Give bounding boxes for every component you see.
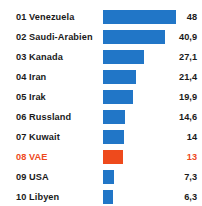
bar (103, 110, 125, 124)
row-country-name: VAE (29, 152, 48, 162)
row-label: 01 Venezuela (16, 7, 74, 27)
bar-track (103, 130, 178, 144)
row-label: 06 Russland (16, 107, 71, 127)
row-label: 04 Iran (16, 67, 46, 87)
bar (103, 10, 176, 24)
row-rank: 09 (16, 172, 26, 182)
bar-track (103, 10, 178, 24)
bar-track (103, 110, 178, 124)
chart-row: 03 Kanada27,1 (0, 47, 202, 67)
row-country-name: Kanada (29, 52, 63, 62)
bar-track (103, 150, 178, 164)
row-rank: 01 (16, 12, 26, 22)
row-value-label: 14 (187, 127, 197, 147)
row-value-label: 14,6 (179, 107, 197, 127)
bar-highlighted (103, 150, 123, 164)
row-country-name: Iran (29, 72, 46, 82)
row-country-name: Venezuela (29, 12, 74, 22)
row-value-label: 40,9 (179, 27, 197, 47)
row-value-label: 13 (187, 147, 197, 167)
bar (103, 190, 113, 204)
row-label: 07 Kuwait (16, 127, 60, 147)
row-rank: 03 (16, 52, 26, 62)
row-label: 08 VAE (16, 147, 48, 167)
row-rank: 04 (16, 72, 26, 82)
bar (103, 170, 114, 184)
bar-track (103, 30, 178, 44)
row-country-name: USA (29, 172, 49, 182)
row-rank: 10 (16, 192, 26, 202)
row-label: 03 Kanada (16, 47, 63, 67)
row-label: 10 Libyen (16, 187, 59, 206)
row-country-name: Libyen (29, 192, 59, 202)
row-country-name: Saudi-Arabien (29, 32, 93, 42)
row-rank: 05 (16, 92, 26, 102)
row-country-name: Kuwait (29, 132, 60, 142)
row-value-label: 48 (187, 7, 197, 27)
row-rank: 02 (16, 32, 26, 42)
bar (103, 30, 165, 44)
bar-track (103, 170, 178, 184)
chart-row: 07 Kuwait14 (0, 127, 202, 147)
bar-track (103, 50, 178, 64)
bar (103, 90, 133, 104)
bar-track (103, 90, 178, 104)
chart-row: 08 VAE13 (0, 147, 202, 167)
row-rank: 07 (16, 132, 26, 142)
row-country-name: Russland (29, 112, 71, 122)
row-label: 02 Saudi-Arabien (16, 27, 93, 47)
chart-row: 01 Venezuela48 (0, 7, 202, 27)
row-value-label: 6,3 (184, 187, 197, 206)
bar-track (103, 70, 178, 84)
bar (103, 130, 124, 144)
chart-row: 02 Saudi-Arabien40,9 (0, 27, 202, 47)
chart-row: 10 Libyen6,3 (0, 187, 202, 206)
row-value-label: 21,4 (179, 67, 197, 87)
row-country-name: Irak (29, 92, 46, 102)
row-rank: 08 (16, 152, 26, 162)
bar-track (103, 190, 178, 204)
chart-row: 09 USA7,3 (0, 167, 202, 187)
row-value-label: 27,1 (179, 47, 197, 67)
row-value-label: 19,9 (179, 87, 197, 107)
bar (103, 70, 136, 84)
bar (103, 50, 144, 64)
row-label: 05 Irak (16, 87, 46, 107)
row-label: 09 USA (16, 167, 49, 187)
chart-row: 06 Russland14,6 (0, 107, 202, 127)
row-value-label: 7,3 (184, 167, 197, 187)
horizontal-bar-chart: 01 Venezuela4802 Saudi-Arabien40,903 Kan… (0, 0, 202, 206)
chart-row: 04 Iran21,4 (0, 67, 202, 87)
chart-row: 05 Irak19,9 (0, 87, 202, 107)
row-rank: 06 (16, 112, 26, 122)
